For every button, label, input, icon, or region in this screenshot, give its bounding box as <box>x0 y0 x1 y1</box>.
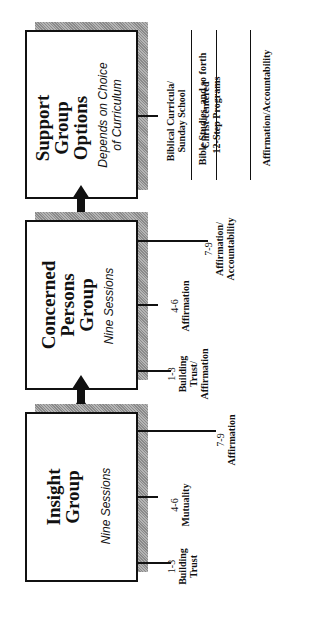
support-title-line: Group <box>52 53 71 203</box>
session-range: 7-9 <box>215 400 226 480</box>
support-option-affirmation-accountability: Affirmation/Accountability <box>261 28 273 188</box>
support-title-line: Support <box>33 53 52 203</box>
insight-session-1-3: 1-3 Building Trust <box>166 537 199 597</box>
support-group-title: Support Group Options <box>33 53 93 203</box>
insight-session-4-6: 4-6 Mutuality <box>169 465 191 545</box>
insight-group-subtitle: Nine Sessions <box>99 446 115 566</box>
option-line: Affirmation/Accountability <box>261 50 272 167</box>
concerned-session-tick <box>138 304 158 306</box>
session-topic: Affirmation/ <box>214 222 225 276</box>
support-group-subtitle: Depends on Choice of Curriculum <box>96 40 126 190</box>
concerned-group-title: Concerned Persons Group <box>39 230 99 380</box>
insight-title-line: Insight <box>44 422 63 572</box>
session-topic: Affirmation <box>226 414 237 465</box>
insight-session-7-9: 7-9 Affirmation <box>215 400 237 480</box>
option-line: Biblical Curricula/ <box>165 81 176 161</box>
insight-group-title: Insight Group <box>44 422 86 572</box>
option-line: Sunday School <box>176 89 187 152</box>
session-range: 4-6 <box>169 465 180 545</box>
session-topic: Trust <box>188 555 199 578</box>
concerned-session-1-3: 1-3 Building Trust/ Affirmation <box>166 334 210 414</box>
concerned-session-7-9: 7-9 Affirmation/ Accountability <box>203 209 237 289</box>
concerned-session-tick <box>138 240 208 242</box>
option-line: 12-Step Programs <box>211 77 222 154</box>
session-topic: Affirmation <box>180 280 191 331</box>
session-range: 1-3 <box>166 537 177 597</box>
concerned-title-line: Persons <box>58 230 77 380</box>
concerned-title-line: Group <box>77 230 96 380</box>
support-connector <box>138 115 158 117</box>
option-line: Christ-centered <box>200 81 211 148</box>
session-topic: Accountability <box>225 218 236 281</box>
support-option-biblical-curricula: Biblical Curricula/ Sunday School <box>165 46 189 196</box>
concerned-group-subtitle: Nine Sessions <box>102 246 118 366</box>
concerned-subtitle-line: Nine Sessions <box>102 246 116 366</box>
session-topic: Building <box>177 548 188 585</box>
session-topic: Trust/ <box>188 361 199 387</box>
option-separator <box>250 30 251 180</box>
session-range: 1-3 <box>166 334 177 414</box>
session-topic: Mutuality <box>180 484 191 527</box>
concerned-title-line: Concerned <box>39 230 58 380</box>
session-range: 7-9 <box>203 209 214 289</box>
insight-title-line: Group <box>63 422 82 572</box>
insight-session-tick <box>138 496 158 498</box>
session-topic: Building <box>177 356 188 393</box>
insight-session-tick <box>138 430 216 432</box>
session-topic: Affirmation <box>199 348 210 399</box>
insight-subtitle-line: Nine Sessions <box>99 446 113 566</box>
support-title-line: Options <box>71 53 90 203</box>
support-subtitle-line: of Curriculum <box>110 40 124 190</box>
option-separator <box>191 30 192 180</box>
support-option-christ-centered: Christ-centered 12-Step Programs <box>200 60 224 170</box>
support-subtitle-line: Depends on Choice <box>96 40 110 190</box>
